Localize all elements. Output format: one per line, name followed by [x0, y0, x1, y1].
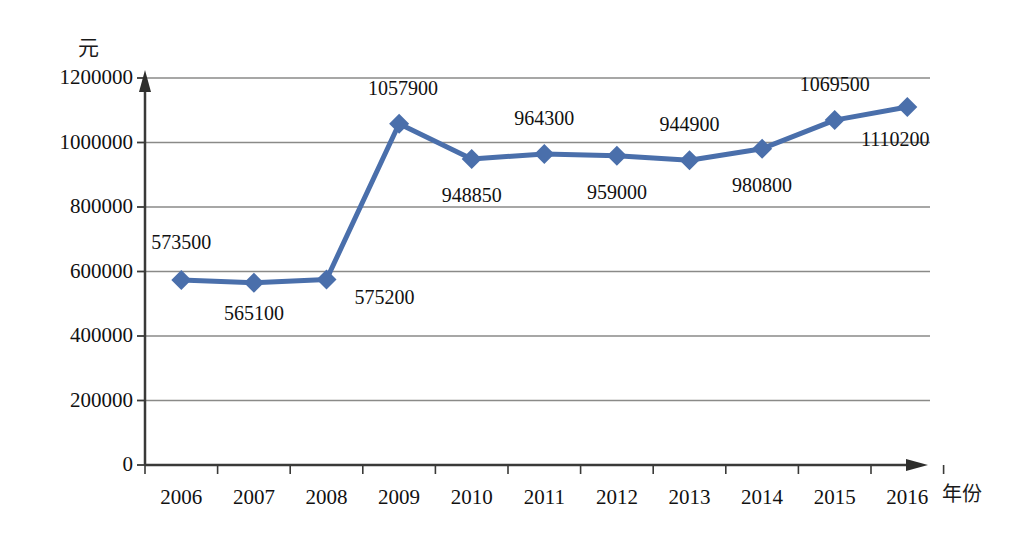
line-chart: 元 年份 02000004000006000008000001000000120… — [0, 0, 1028, 540]
y-axis-arrowhead — [139, 70, 151, 92]
data-point-label: 948850 — [412, 185, 532, 205]
x-axis-tick-label: 2013 — [653, 487, 727, 508]
data-point-marker — [825, 110, 845, 130]
y-axis-tick-label: 200000 — [33, 390, 133, 411]
data-point-marker — [244, 273, 264, 293]
x-axis-tick-label: 2011 — [507, 487, 581, 508]
y-axis-tick-label: 0 — [33, 454, 133, 475]
data-point-label: 944900 — [630, 114, 750, 134]
data-point-label: 980800 — [702, 175, 822, 195]
x-axis-tick-label: 2007 — [217, 487, 291, 508]
data-point-marker — [534, 144, 554, 164]
data-point-marker — [752, 139, 772, 159]
x-axis-tick-label: 2006 — [144, 487, 218, 508]
y-axis-tick-label: 1000000 — [33, 132, 133, 153]
x-axis-arrowhead — [906, 459, 928, 471]
data-point-marker — [897, 97, 917, 117]
y-axis-tick-label: 600000 — [33, 261, 133, 282]
x-axis-tick-label: 2010 — [435, 487, 509, 508]
data-point-label: 959000 — [557, 182, 677, 202]
x-axis-tick-label: 2015 — [798, 487, 872, 508]
data-point-label: 1110200 — [835, 129, 955, 149]
data-point-label: 1057900 — [343, 78, 463, 98]
y-axis-tick-label: 1200000 — [33, 67, 133, 88]
x-axis-tick-label: 2014 — [725, 487, 799, 508]
data-point-label: 573500 — [121, 232, 241, 252]
y-axis-tick-label: 400000 — [33, 325, 133, 346]
data-point-marker — [389, 114, 409, 134]
y-axis-tick-label: 800000 — [33, 196, 133, 217]
data-point-marker — [680, 150, 700, 170]
data-point-label: 565100 — [194, 303, 314, 323]
x-axis-tick-label: 2016 — [870, 487, 944, 508]
data-point-label: 1069500 — [775, 74, 895, 94]
data-point-label: 964300 — [484, 108, 604, 128]
x-axis-tick-label: 2009 — [362, 487, 436, 508]
data-point-marker — [171, 270, 191, 290]
series-line — [181, 107, 907, 283]
data-point-marker — [607, 146, 627, 166]
x-axis-tick-label: 2008 — [290, 487, 364, 508]
data-point-marker — [462, 149, 482, 169]
x-axis-tick-label: 2012 — [580, 487, 654, 508]
data-point-marker — [317, 269, 337, 289]
data-point-label: 575200 — [325, 287, 445, 307]
x-axis-ticks — [145, 465, 944, 474]
